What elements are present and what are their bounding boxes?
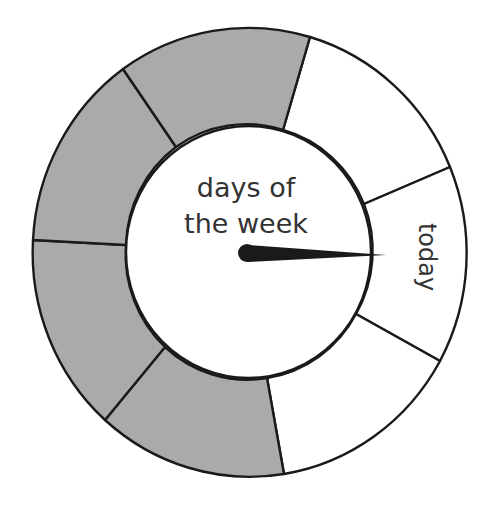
days-of-week-wheel: days of the week today: [0, 0, 496, 510]
center-label-line1: days of: [197, 172, 297, 203]
today-label: today: [413, 223, 441, 291]
center-label-line2: the week: [184, 208, 308, 239]
